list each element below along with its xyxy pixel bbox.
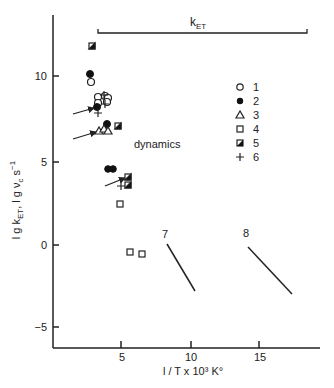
legend-item-3: 3 [236, 109, 259, 121]
trend-lines [167, 244, 292, 294]
y-tick-10: 10 [35, 70, 47, 82]
y-tick-minus5: −5 [34, 321, 47, 333]
chart: 10 5 0 −5 5 10 15 l / T x 10³ K° l g kET… [0, 0, 334, 388]
line-8 [248, 247, 292, 294]
legend: 1 2 3 4 5 6 [236, 81, 259, 163]
x-tick-labels: 5 10 15 [119, 351, 266, 363]
arrow-icon [73, 132, 96, 139]
legend-item-5 [237, 140, 243, 146]
svg-text:4: 4 [253, 123, 259, 135]
x-tick-5: 5 [119, 351, 125, 363]
legend-item-1: 1 [237, 81, 259, 93]
arrow-icon [105, 178, 125, 186]
y-tick-0: 0 [41, 239, 47, 251]
y-tick-5: 5 [41, 156, 47, 168]
plus-icon [236, 153, 244, 161]
svg-text:6: 6 [253, 151, 259, 163]
line-7-label: 7 [162, 228, 168, 240]
x-tick-15: 15 [254, 351, 266, 363]
legend-label-5: 5 [253, 137, 259, 149]
open-circle-icon [237, 84, 243, 90]
svg-text:3: 3 [253, 109, 259, 121]
svg-text:2: 2 [253, 95, 259, 107]
legend-item-4: 4 [237, 123, 259, 135]
filled-circle-icon [237, 98, 243, 104]
series-1-open-circles [88, 79, 112, 107]
arrow-icon [73, 108, 94, 114]
line-7 [167, 244, 195, 291]
series-4-open-squares [117, 201, 145, 257]
svg-text:1: 1 [253, 81, 259, 93]
arrows [73, 108, 125, 186]
open-square-icon [237, 126, 243, 132]
line-8-label: 8 [243, 227, 249, 239]
x-tick-10: 10 [185, 351, 197, 363]
y-tick-labels: 10 5 0 −5 [34, 70, 47, 333]
ket-label: kET [190, 15, 206, 31]
axes [53, 15, 320, 348]
triangle-icon [236, 111, 244, 118]
legend-item-2: 2 [237, 95, 259, 107]
y-axis-label: l g kET, l g νc s−1 [8, 160, 25, 239]
dynamics-label: dynamics [134, 138, 181, 150]
legend-item-6: 6 [236, 151, 259, 163]
x-axis-label: l / T x 10³ K° [163, 365, 223, 377]
